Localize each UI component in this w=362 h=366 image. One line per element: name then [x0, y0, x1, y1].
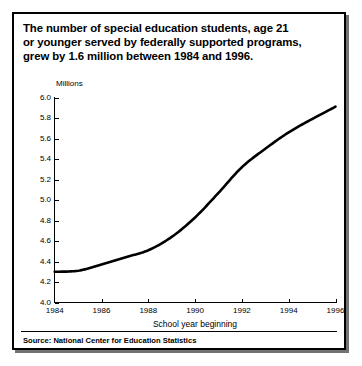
x-axis-title: School year beginning	[54, 319, 336, 329]
source-divider	[21, 331, 337, 332]
source-text: Source: National Center for Education St…	[23, 336, 196, 345]
chart-figure: The number of special education students…	[12, 12, 346, 350]
data-series-line	[55, 107, 336, 272]
data-line-svg	[14, 14, 346, 350]
plot-area: Millions 4.04.24.44.64.85.05.25.45.65.86…	[14, 14, 346, 350]
